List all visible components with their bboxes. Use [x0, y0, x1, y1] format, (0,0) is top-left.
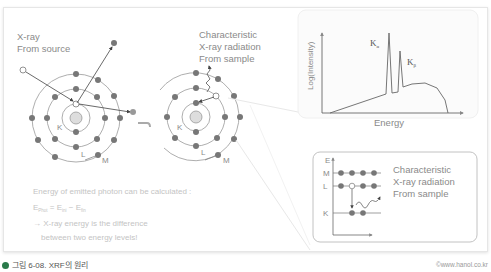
left-atom: X-ray From source — [17, 31, 136, 165]
energy-axis-label: E — [325, 156, 330, 165]
right-shell-M: M — [223, 156, 230, 165]
caption-text: 그림 6-08. XRF의 원리 — [12, 261, 88, 270]
credit-text: ©www.hanol.co.kr — [436, 261, 488, 268]
chart-xlabel: Energy — [374, 117, 404, 128]
left-atom-title-1: X-ray — [17, 31, 40, 42]
level-M-label: M — [323, 169, 330, 178]
level-L-label: L — [323, 182, 328, 191]
right-shell-K: K — [177, 123, 183, 132]
figure-caption: 그림 6-08. XRF의 원리 — [2, 259, 88, 270]
right-atom-title-2: X-ray radiation — [199, 41, 261, 52]
explanation: Energy of emitted photon can be calculat… — [33, 187, 191, 242]
nucleus-icon — [70, 112, 82, 124]
level-K-label: K — [323, 209, 329, 218]
xrf-diagram: X-ray From source — [0, 0, 491, 272]
energy-diagram-title-1: Characteristic — [393, 164, 451, 175]
spectrum-chart: Log(Intensity) Energy Kα Kβ — [298, 10, 478, 128]
left-shell-K: K — [57, 123, 63, 132]
explanation-line-1: Energy of emitted photon can be calculat… — [33, 187, 191, 196]
right-atom-title-1: Characteristic — [199, 29, 257, 40]
right-shell-L: L — [201, 148, 206, 157]
energy-level-diagram: E M L K Characteristic X-ray radiation F… — [313, 152, 477, 242]
explanation-line-3: → X-ray energy is the difference — [33, 219, 148, 228]
right-turn-arrow-icon — [138, 123, 150, 127]
caption-bullet-icon — [2, 262, 9, 269]
energy-diagram-title-2: X-ray radiation — [393, 176, 455, 187]
formula: EPhot = Eini − Efin — [33, 203, 86, 213]
chart-ylabel: Log(Intensity) — [306, 41, 315, 90]
left-shell-L: L — [81, 150, 86, 159]
right-atom-title-3: From sample — [199, 53, 254, 64]
left-atom-title-2: From source — [17, 43, 70, 54]
left-shell-M: M — [102, 156, 109, 165]
explanation-line-4: between two energy levels! — [41, 233, 138, 242]
right-atom: Characteristic X-ray radiation From samp… — [160, 29, 261, 165]
energy-diagram-title-3: From sample — [393, 188, 448, 199]
